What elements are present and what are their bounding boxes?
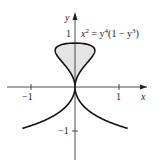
equation-label: x2 = y4(1 − y3) <box>80 27 139 40</box>
x-axis-label: x <box>140 91 146 102</box>
x-tick-1: 1 <box>116 91 121 102</box>
y-tick-1: 1 <box>66 28 71 39</box>
x-tick-neg1: −1 <box>22 91 33 102</box>
plot-area: −1 1 x y 1 −1 x2 = y4(1 − y3) <box>0 0 159 166</box>
chart: −1 1 x y 1 −1 x2 = y4(1 − y3) <box>0 0 159 166</box>
y-axis-arrow-icon <box>73 12 78 20</box>
y-axis-label: y <box>64 12 70 23</box>
y-tick-neg1: −1 <box>58 125 69 136</box>
x-axis-arrow-icon <box>140 85 147 90</box>
